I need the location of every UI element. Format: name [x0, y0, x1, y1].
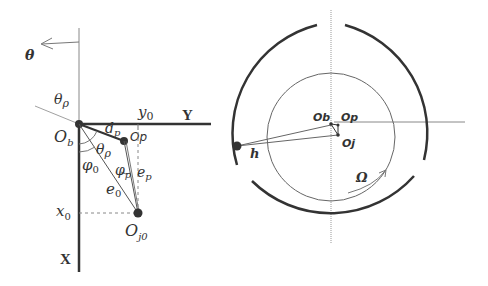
y0-label: y0: [137, 103, 153, 123]
dp-label: dp: [105, 120, 121, 138]
oj-label-right: Oj: [342, 137, 355, 150]
x-axis-label: X: [60, 251, 71, 267]
theta-p-reference-line: [35, 106, 79, 124]
theta-p-inner-label: θρ: [96, 141, 111, 160]
ep-label: ep: [137, 164, 152, 182]
op-label-right: Op: [341, 111, 358, 124]
outer-arc-bottom: [252, 176, 414, 213]
y-axis-label: Y: [182, 107, 193, 123]
h-point: [233, 142, 242, 151]
omega-label: Ω: [355, 170, 368, 185]
e0-label: e0: [106, 180, 121, 199]
oj0-label: Oj0: [125, 221, 148, 242]
h-line-upper: [237, 125, 331, 146]
h-label: h: [250, 146, 259, 161]
ob-label-right: Ob: [313, 111, 330, 124]
diagram-canvas: θ θρ y0 Y X Ob dp Op: [0, 0, 488, 286]
op-label: Op: [130, 130, 147, 144]
oj0-point: [134, 209, 143, 218]
phi0-arc: [79, 147, 95, 152]
op-point-right: [337, 124, 340, 127]
oj-point-right: [336, 133, 340, 137]
phi0-label: φ0: [82, 156, 99, 175]
outer-arc-right: [345, 25, 427, 160]
h-line-lower: [237, 135, 338, 146]
right-panel: Ob Op Oj h Ω: [232, 10, 465, 244]
left-panel: θ θρ y0 Y X Ob dp Op: [25, 28, 211, 272]
theta-arrow-icon: [41, 38, 79, 49]
x0-label: x0: [56, 202, 71, 222]
ob-label: Ob: [54, 127, 74, 148]
theta-p-label: θρ: [54, 91, 69, 110]
phi-p-label: φp: [115, 162, 132, 180]
theta-label: θ: [25, 47, 35, 63]
